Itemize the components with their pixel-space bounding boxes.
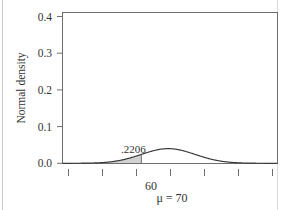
plot-frame [63, 13, 278, 164]
shaded-tail-region [63, 154, 142, 163]
y-tick-label-0.2: 0.2 [38, 84, 53, 96]
x-tick-label-60: 60 [145, 179, 157, 193]
y-tick-label-0.3: 0.3 [38, 47, 53, 59]
plot-canvas: 0.4 0.3 0.2 0.1 0.0 Normal density 60 μ … [0, 0, 289, 210]
y-axis-ticks [57, 17, 63, 164]
x-axis-mu-label: μ = 70 [156, 191, 187, 205]
density-curve [63, 149, 278, 164]
y-tick-label-0.4: 0.4 [38, 11, 53, 23]
y-tick-label-0.0: 0.0 [38, 157, 53, 169]
y-axis-title: Normal density [15, 52, 28, 123]
x-axis-ticks [69, 169, 273, 176]
normal-density-figure: 0.4 0.3 0.2 0.1 0.0 Normal density 60 μ … [0, 0, 289, 210]
shaded-area-label: .2206 [121, 143, 146, 155]
y-tick-label-0.1: 0.1 [38, 121, 53, 133]
